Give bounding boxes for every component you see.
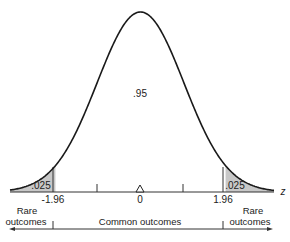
common-outcomes-label: Common outcomes (99, 216, 182, 227)
left-tail-area-label: .025 (31, 180, 51, 191)
left-rare-label-line1: Rare (17, 205, 38, 216)
right-rare-label-line2: outcomes (229, 216, 270, 227)
center-area-label: .95 (133, 88, 147, 99)
right-tail-area-label: .025 (225, 180, 245, 191)
zero-label: 0 (137, 194, 143, 205)
mean-triangle-icon (136, 185, 144, 192)
normal-curve (10, 12, 274, 190)
right-rare-label-line1: Rare (243, 205, 264, 216)
left-arrow-icon (9, 227, 15, 231)
left-critical-value: -1.96 (42, 194, 65, 205)
normal-distribution-diagram: .95 .025 .025 z -1.96 0 1.96 Rare outcom… (0, 0, 290, 242)
right-critical-value: 1.96 (213, 194, 233, 205)
left-rare-label-line2: outcomes (5, 216, 46, 227)
right-arrow-icon (267, 227, 273, 231)
z-axis-label: z (280, 186, 286, 197)
